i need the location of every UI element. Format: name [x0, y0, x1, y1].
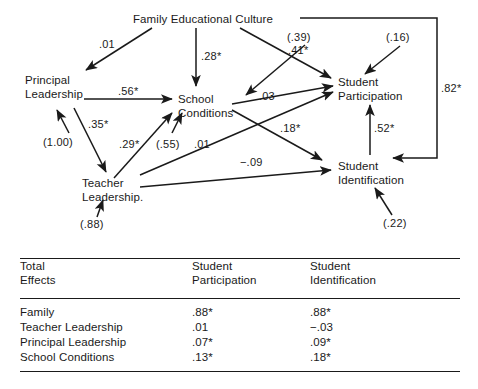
coef-principal-to-teacher: .35* [88, 118, 108, 130]
header-row-label-line2: Effects [20, 273, 56, 287]
header-row-label-line1: Total [20, 259, 45, 273]
node-identification-label-line2: Identification [338, 173, 404, 187]
arrow-disturbance-participation [365, 46, 400, 74]
node-teacher-leadership: Teacher Leadership. [82, 176, 143, 204]
coef-school-to-participation: .03 [259, 90, 275, 102]
table-header-row: Total Effects Student Participation Stud… [20, 259, 460, 298]
coef-teacher-to-identification: −.09 [240, 156, 263, 168]
node-participation-label-line1: Student [338, 75, 403, 89]
coef-principal-to-school: .56* [118, 85, 138, 97]
coef-family-to-identification: .82* [441, 82, 461, 94]
path-diagram-figure: Family Educational Culture Principal Lea… [0, 0, 478, 389]
table-row: Family .88* .88* [20, 305, 460, 320]
row-value-identification: .09* [310, 335, 331, 349]
disturbance-participation-alt: (.16) [386, 31, 410, 43]
row-label: School Conditions [20, 350, 114, 364]
arrow-disturbance-principal [57, 110, 69, 133]
row-value-participation: .01 [192, 320, 208, 334]
disturbance-principal: (1.00) [43, 136, 73, 148]
row-value-participation: .88* [192, 305, 213, 319]
node-family-educational-culture: Family Educational Culture [133, 12, 273, 26]
arrow-disturbance-identification [375, 188, 392, 215]
table-row: Principal Leadership .07* .09* [20, 335, 460, 350]
row-value-identification: .88* [310, 305, 331, 319]
total-effects-table: Total Effects Student Participation Stud… [20, 258, 460, 372]
arrow-teacher-to-participation [140, 92, 333, 175]
node-principal-label-line1: Principal [25, 73, 83, 87]
node-student-participation: Student Participation [338, 75, 403, 103]
arrow-family-to-principal [86, 28, 152, 70]
arrow-family-to-participation [240, 28, 331, 78]
node-identification-label-line1: Student [338, 159, 404, 173]
table-row: Teacher Leadership .01 −.03 [20, 320, 460, 335]
row-value-participation: .07* [192, 335, 213, 349]
coef-family-to-principal: .01 [99, 38, 115, 50]
node-family-label: Family Educational Culture [133, 12, 273, 26]
node-student-identification: Student Identification [338, 159, 404, 187]
coef-teacher-to-participation: .01 [194, 138, 210, 150]
node-school-label-line2: Conditions [178, 106, 233, 120]
node-school-conditions: School Conditions [178, 92, 233, 120]
node-principal-label-line2: Leadership [25, 87, 83, 101]
node-teacher-label-line2: Leadership. [82, 190, 143, 204]
arrow-teacher-to-identification [140, 170, 331, 187]
coef-teacher-to-school: .29* [119, 138, 139, 150]
table-body: Family .88* .88* Teacher Leadership .01 … [20, 299, 460, 371]
row-value-participation: .13* [192, 350, 213, 364]
header-col-identification-line1: Student [310, 259, 350, 273]
node-participation-label-line2: Participation [338, 89, 403, 103]
header-col-participation-line1: Student [192, 259, 232, 273]
row-label: Principal Leadership [20, 335, 126, 349]
header-col-identification-line2: Identification [310, 273, 376, 287]
node-teacher-label-line1: Teacher [82, 176, 143, 190]
disturbance-school: (.55) [156, 138, 180, 150]
row-value-identification: .18* [310, 350, 331, 364]
disturbance-participation: (.39) [287, 31, 311, 43]
coef-family-to-school: .28* [201, 50, 221, 62]
node-principal-leadership: Principal Leadership [25, 73, 83, 101]
arrow-school-to-identification [232, 110, 322, 160]
disturbance-teacher: (.88) [80, 218, 104, 230]
table-bottom-rule [20, 371, 460, 372]
row-label: Teacher Leadership [20, 320, 123, 334]
coef-identification-to-participation: .52* [374, 122, 394, 134]
node-school-label-line1: School [178, 92, 233, 106]
disturbance-identification: (.22) [383, 217, 407, 229]
coef-school-to-identification: .18* [280, 122, 300, 134]
coef-family-to-participation: .41* [288, 44, 308, 56]
row-value-identification: −.03 [310, 320, 333, 334]
header-col-participation-line2: Participation [192, 273, 257, 287]
table-row: School Conditions .13* .18* [20, 350, 460, 365]
row-label: Family [20, 305, 54, 319]
